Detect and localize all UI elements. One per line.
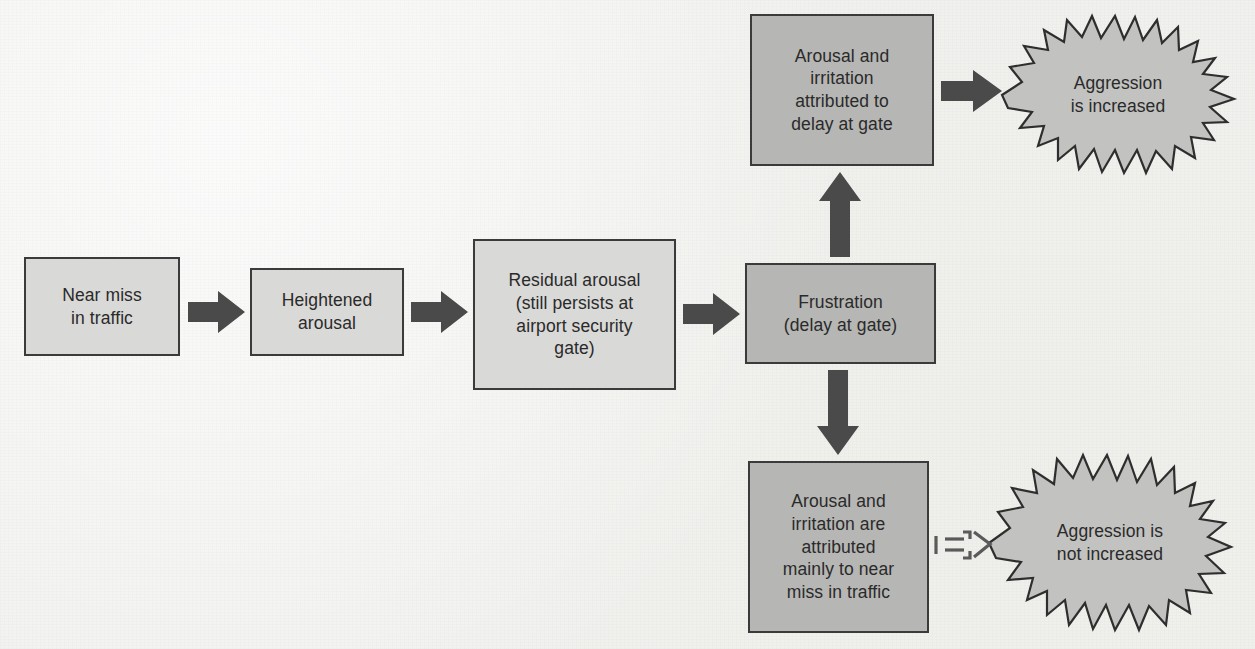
node-attributed-to-near-miss-label: Arousal and irritation are attributed ma… [783, 490, 894, 604]
node-aggression-increased[interactable]: Aggression is increased [998, 10, 1238, 180]
node-residual-arousal-label: Residual arousal (still persists at airp… [509, 269, 641, 360]
flowchart-diagram: Near miss in traffic Heightened arousal … [0, 0, 1255, 649]
node-frustration-label: Frustration (delay at gate) [784, 291, 897, 337]
node-heightened-arousal-label: Heightened arousal [282, 289, 373, 335]
arrow-right-dashed-icon [933, 515, 995, 573]
node-heightened-arousal[interactable]: Heightened arousal [250, 268, 404, 356]
node-near-miss[interactable]: Near miss in traffic [24, 257, 180, 356]
arrow-attributed-to-delay-to-aggression-increased [941, 68, 1003, 114]
node-aggression-not-increased-label: Aggression is not increased [1057, 520, 1163, 566]
node-residual-arousal[interactable]: Residual arousal (still persists at airp… [473, 239, 676, 390]
node-attributed-to-delay[interactable]: Arousal and irritation attributed to del… [750, 14, 934, 166]
arrow-right-icon [411, 289, 469, 335]
node-frustration[interactable]: Frustration (delay at gate) [745, 263, 936, 364]
node-aggression-increased-label: Aggression is increased [1071, 72, 1166, 118]
arrow-heightened-arousal-to-residual-arousal [411, 289, 469, 335]
node-attributed-to-near-miss[interactable]: Arousal and irritation are attributed ma… [748, 461, 929, 633]
node-near-miss-label: Near miss in traffic [62, 284, 142, 330]
arrow-right-icon [188, 289, 246, 335]
arrow-attributed-to-near-miss-to-aggression-not-increased [933, 515, 995, 573]
arrow-frustration-to-attributed-to-near-miss [815, 370, 861, 456]
arrow-right-icon [683, 291, 741, 337]
node-aggression-not-increased[interactable]: Aggression is not increased [985, 448, 1235, 638]
arrow-down-icon [815, 370, 861, 456]
arrow-up-icon [817, 172, 863, 258]
arrow-right-icon [941, 68, 1003, 114]
arrow-residual-arousal-to-frustration [683, 291, 741, 337]
arrow-near-miss-to-heightened-arousal [188, 289, 246, 335]
node-attributed-to-delay-label: Arousal and irritation attributed to del… [791, 45, 893, 136]
arrow-frustration-to-attributed-to-delay [817, 172, 863, 258]
